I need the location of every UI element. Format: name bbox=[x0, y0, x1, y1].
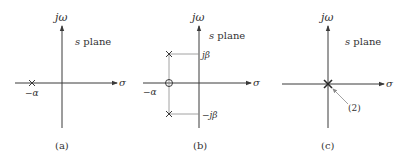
pointer-arrow bbox=[333, 89, 348, 104]
panel-a: jω σ s plane −α (a) bbox=[15, 11, 127, 151]
pole-zero-diagram: jω σ s plane −α (a) jω σ s plane jβ −jβ … bbox=[0, 0, 401, 163]
pole-label-lower: −jβ bbox=[202, 110, 218, 120]
caption-b: (b) bbox=[193, 140, 207, 151]
real-axis-label: σ bbox=[119, 77, 127, 88]
zero-label: −α bbox=[143, 87, 157, 97]
multiplicity-label: (2) bbox=[348, 103, 361, 113]
real-axis-label: σ bbox=[253, 77, 261, 88]
caption-c: (c) bbox=[321, 140, 335, 151]
real-axis-label: σ bbox=[386, 78, 394, 89]
panel-b: jω σ s plane jβ −jβ −α (b) bbox=[143, 11, 261, 151]
s-plane-label: s plane bbox=[75, 36, 111, 47]
panel-c: jω σ s plane (2) (c) bbox=[282, 11, 394, 151]
imag-axis-label: jω bbox=[189, 11, 204, 24]
imag-axis-label: jω bbox=[52, 11, 67, 24]
s-plane-label: s plane bbox=[345, 36, 381, 47]
imag-axis-label: jω bbox=[318, 11, 333, 24]
s-plane-label: s plane bbox=[209, 30, 245, 41]
pole-label: −α bbox=[25, 88, 39, 98]
caption-a: (a) bbox=[55, 140, 69, 151]
pole-label-upper: jβ bbox=[200, 50, 210, 60]
